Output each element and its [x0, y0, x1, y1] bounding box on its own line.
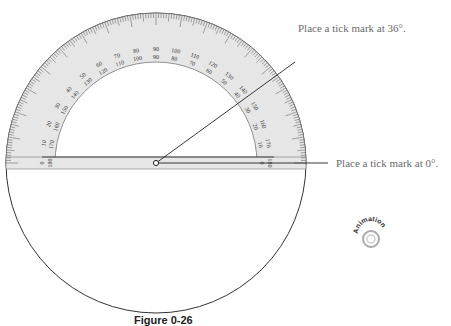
svg-text:80: 80 — [171, 55, 178, 62]
callout-0-degrees: Place a tick mark at 0°. — [336, 157, 438, 169]
figure-caption: Figure 0-26 — [134, 314, 193, 326]
center-point — [153, 160, 158, 165]
animation-spiral-icon: Animation — [350, 212, 392, 254]
svg-text:10: 10 — [257, 141, 264, 148]
animation-badge[interactable]: Animation — [350, 212, 392, 254]
svg-text:10: 10 — [40, 140, 47, 147]
svg-text:0: 0 — [39, 162, 45, 165]
svg-text:80: 80 — [133, 47, 140, 54]
callout-36-degrees: Place a tick mark at 36°. — [298, 22, 406, 34]
svg-text:180: 180 — [47, 159, 53, 168]
svg-text:90: 90 — [153, 46, 159, 52]
svg-text:90: 90 — [153, 54, 159, 60]
